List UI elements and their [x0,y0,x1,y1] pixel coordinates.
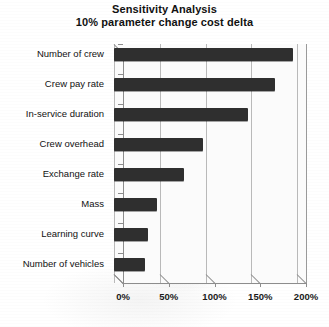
chart-title-block: Sensitivity Analysis 10% parameter chang… [0,3,329,29]
x-tick-0 [123,283,124,287]
x-tick-200 [306,283,307,287]
x-tick-100 [215,283,216,287]
y-axis-label-learning-curve: Learning curve [0,228,104,239]
bar-crew-pay-rate [114,78,275,91]
bar-number-of-crew [114,48,293,61]
y-axis-label-number-of-vehicles: Number of vehicles [0,258,104,269]
x-axis-label-100: 100% [195,291,235,302]
y-axis-label-crew-pay-rate: Crew pay rate [0,78,104,89]
y-axis-label-mass: Mass [0,198,104,209]
plot-right-edge [306,44,307,283]
y-tick-6 [118,223,123,224]
y-tick-1 [118,74,123,75]
y-tick-3 [118,134,123,135]
x-axis-label-50: 50% [149,291,189,302]
y-axis-label-number-of-crew: Number of crew [0,48,104,59]
x-axis-label-0: 0% [103,291,143,302]
bar-in-service-duration [114,108,248,121]
y-axis-label-crew-overhead: Crew overhead [0,138,104,149]
gridline-200 [297,44,298,283]
y-tick-4 [118,164,123,165]
y-tick-0 [118,44,123,45]
bar-number-of-vehicles [114,258,145,271]
chart-title: Sensitivity Analysis [0,3,329,16]
y-axis-label-in-service-duration: In-service duration [0,108,104,119]
x-axis-label-200: 200% [286,291,326,302]
x-tick-50 [169,283,170,287]
bar-exchange-rate [114,168,184,181]
bar-learning-curve [114,228,148,241]
chart-subtitle: 10% parameter change cost delta [0,16,329,29]
y-axis-label-exchange-rate: Exchange rate [0,168,104,179]
y-tick-5 [118,193,123,194]
y-tick-7 [118,253,123,254]
x-tick-150 [260,283,261,287]
bar-crew-overhead [114,138,203,151]
bar-mass [114,198,157,211]
y-tick-2 [118,104,123,105]
x-axis-label-150: 150% [240,291,280,302]
sensitivity-analysis-chart: Sensitivity Analysis 10% parameter chang… [0,0,329,327]
